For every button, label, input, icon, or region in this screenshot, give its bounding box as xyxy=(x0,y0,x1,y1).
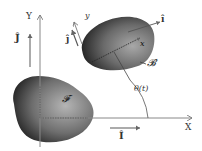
local-x-label: x xyxy=(140,40,145,48)
fixed-body xyxy=(13,76,93,142)
local-y-label: y xyxy=(85,12,90,20)
fixed-body-label: 𝓕 xyxy=(62,94,69,104)
unit-vector-j-label: Ĵ xyxy=(15,33,20,43)
unit-vector-i-label: Î xyxy=(119,131,124,141)
moving-body-label: 𝓑 xyxy=(147,58,156,68)
local-unit-j-label: ĵ xyxy=(66,35,69,44)
diagram-canvas xyxy=(0,0,202,151)
local-unit-i-label: î xyxy=(161,15,164,24)
y-axis-label: Y xyxy=(26,12,32,21)
x-axis-label: X xyxy=(185,123,191,132)
angle-label: θ(t) xyxy=(134,85,148,93)
rigid-body-diagram: Y X Ĵ Î 𝓕 𝓑 y x î ĵ θ(t) xyxy=(0,0,202,151)
